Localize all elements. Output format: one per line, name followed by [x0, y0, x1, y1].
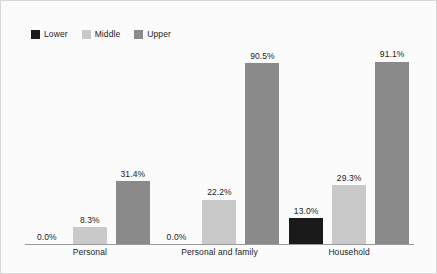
bar-rect-lower-household: [289, 218, 323, 244]
bar-middle-household[interactable]: 29.3%: [332, 18, 366, 244]
bar-lower-personal-and-family[interactable]: 0.0%: [159, 18, 193, 244]
category-label-personal: Personal: [25, 247, 155, 257]
x-axis-line: [25, 244, 414, 245]
bar-upper-household[interactable]: 91.1%: [375, 18, 409, 244]
bar-rect-middle-household: [332, 185, 366, 244]
bar-rect-upper-personal: [116, 181, 150, 244]
bar-value-upper-personal-and-family: 90.5%: [250, 52, 275, 61]
bar-middle-personal-and-family[interactable]: 22.2%: [202, 18, 236, 244]
bar-value-middle-personal: 8.3%: [80, 216, 100, 225]
plot-area: 0.0% 8.3% 31.4% 0.0%: [25, 19, 414, 245]
bar-value-lower-personal: 0.0%: [37, 233, 57, 242]
bar-lower-personal[interactable]: 0.0%: [30, 18, 64, 244]
x-axis-category-labels: Personal Personal and family Household: [25, 247, 414, 263]
bar-rect-middle-personal: [73, 227, 107, 244]
bar-group-personal: 0.0% 8.3% 31.4%: [25, 18, 155, 244]
bar-group-personal-and-family: 0.0% 22.2% 90.5%: [155, 18, 285, 244]
bar-value-middle-personal-and-family: 22.2%: [207, 188, 232, 197]
chart-container: Lower Middle Upper 0.0% 8.3%: [0, 0, 437, 274]
category-label-household: Household: [284, 247, 414, 257]
bar-middle-personal[interactable]: 8.3%: [73, 18, 107, 244]
bar-value-lower-household: 13.0%: [294, 207, 319, 216]
bar-rect-middle-personal-and-family: [202, 200, 236, 244]
bar-group-household: 13.0% 29.3% 91.1%: [284, 18, 414, 244]
bar-upper-personal[interactable]: 31.4%: [116, 18, 150, 244]
bar-upper-personal-and-family[interactable]: 90.5%: [245, 18, 279, 244]
bar-rect-upper-household: [375, 62, 409, 244]
bar-lower-household[interactable]: 13.0%: [289, 18, 323, 244]
bar-value-lower-personal-and-family: 0.0%: [167, 233, 187, 242]
category-label-personal-and-family: Personal and family: [155, 247, 285, 257]
bar-value-middle-household: 29.3%: [337, 174, 362, 183]
bar-value-upper-personal: 31.4%: [121, 170, 146, 179]
bar-rect-upper-personal-and-family: [245, 63, 279, 244]
bar-value-upper-household: 91.1%: [380, 50, 405, 59]
